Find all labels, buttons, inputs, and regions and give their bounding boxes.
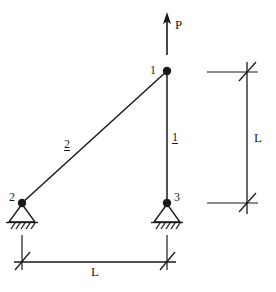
node-1-joint	[163, 67, 171, 75]
dimension-horizontal-label: L	[91, 265, 99, 278]
node-2-label: 2	[9, 191, 15, 203]
node-1-label: 1	[150, 64, 156, 76]
load-arrow-p	[163, 12, 171, 55]
node-3-hatching	[156, 223, 180, 229]
load-label-p: P	[175, 18, 182, 31]
node-3-label: 3	[174, 191, 180, 203]
node-2-hatching	[11, 223, 35, 229]
member-2-label: 2	[64, 138, 70, 150]
diagram-canvas	[0, 0, 276, 292]
truss-diagram-figure: P 1 2 3 1 2 L L	[0, 0, 276, 292]
dimension-vertical-L	[207, 62, 258, 214]
dimension-vertical-label: L	[254, 131, 262, 144]
member-2-line	[22, 71, 167, 203]
member-1-label: 1	[172, 131, 178, 143]
node-2-joint	[18, 199, 26, 207]
node-3-joint	[163, 199, 171, 207]
